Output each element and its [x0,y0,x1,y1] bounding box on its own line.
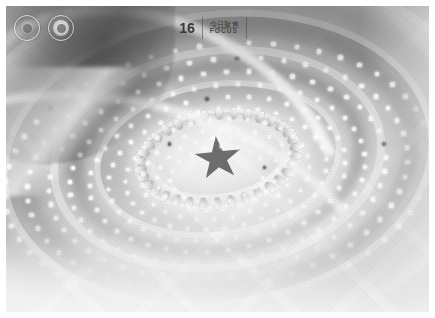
lamp-dot [328,126,332,130]
scanned-page: 16 今日聚焦 FOCUS [0,0,435,318]
ceiling-photograph [6,6,429,312]
lamp-dot [352,127,356,131]
bottom-edge-fade [6,171,429,312]
lamp-dot [343,116,347,120]
